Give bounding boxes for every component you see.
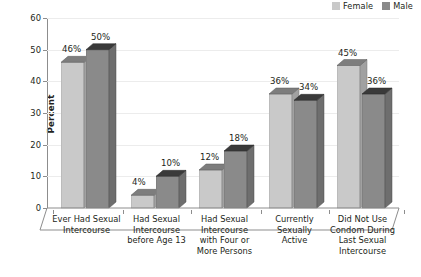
bar-male-2 xyxy=(224,18,254,208)
bar-male-3 xyxy=(294,18,324,208)
bar-value-label: 18% xyxy=(229,134,248,143)
category-label-line: More Persons xyxy=(175,246,274,257)
bar-male-4 xyxy=(362,18,392,208)
bar-value-label: 46% xyxy=(62,45,81,54)
bar-male-0 xyxy=(86,18,116,208)
bar-chart: Female Male Percent 0102030405060 46%50%… xyxy=(0,0,421,277)
y-axis-tick-label: 0 xyxy=(36,204,41,212)
y-axis-tick-label: 40 xyxy=(30,77,41,85)
category-label-line: Last Sexual xyxy=(313,235,412,246)
category-label-line: Did Not Use xyxy=(313,214,412,225)
legend-swatch-female xyxy=(332,2,340,10)
bar-male-1 xyxy=(156,18,186,208)
bar-value-label: 12% xyxy=(200,153,219,162)
legend-label-male: Male xyxy=(393,2,413,10)
legend-swatch-male xyxy=(382,2,390,10)
chart-legend: Female Male xyxy=(332,2,413,10)
legend-entry-female: Female xyxy=(332,2,373,10)
bar-value-label: 36% xyxy=(270,77,289,86)
y-axis-tick-label: 10 xyxy=(30,172,41,180)
bar-value-label: 10% xyxy=(161,159,180,168)
legend-label-female: Female xyxy=(343,2,373,10)
x-axis-tick xyxy=(404,210,405,214)
bar-value-label: 45% xyxy=(338,49,357,58)
y-axis-tick-label: 60 xyxy=(30,14,41,22)
category-label-line: Condom During xyxy=(313,225,412,236)
x-axis-category-labels: Ever Had SexualIntercourseHad SexualInte… xyxy=(47,214,407,276)
x-axis-category-label: Did Not UseCondom DuringLast SexualInter… xyxy=(313,214,412,256)
y-axis-tick-label: 30 xyxy=(30,109,41,117)
bar-value-label: 4% xyxy=(132,178,146,187)
bar-value-label: 34% xyxy=(299,83,318,92)
bar-value-label: 50% xyxy=(91,33,110,42)
legend-entry-male: Male xyxy=(382,2,413,10)
bar-value-label: 36% xyxy=(367,77,386,86)
category-label-line: Intercourse xyxy=(313,246,412,257)
bar-series-container: 46%50%4%10%12%18%36%34%45%36% xyxy=(47,18,407,208)
y-axis-tick-label: 50 xyxy=(30,45,41,53)
plot-area: Percent 0102030405060 46%50%4%10%12%18%3… xyxy=(47,18,407,208)
y-axis-tick-label: 20 xyxy=(30,140,41,148)
